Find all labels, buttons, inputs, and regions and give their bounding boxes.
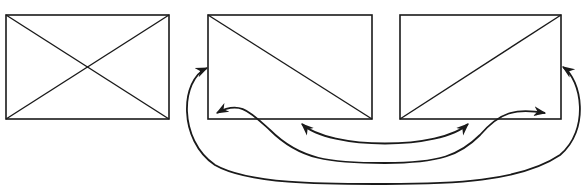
diagram-svg bbox=[0, 0, 588, 192]
diagram-canvas bbox=[0, 0, 588, 192]
inner-double-arrow bbox=[302, 124, 468, 144]
outer-double-arrow bbox=[187, 67, 580, 184]
middle-double-arrow bbox=[217, 108, 545, 163]
panel-3 bbox=[400, 15, 561, 119]
panel-1 bbox=[6, 15, 169, 119]
panel-3-diagonal bbox=[400, 15, 561, 119]
panel-2 bbox=[208, 15, 372, 119]
panel-2-diagonal bbox=[208, 15, 372, 119]
